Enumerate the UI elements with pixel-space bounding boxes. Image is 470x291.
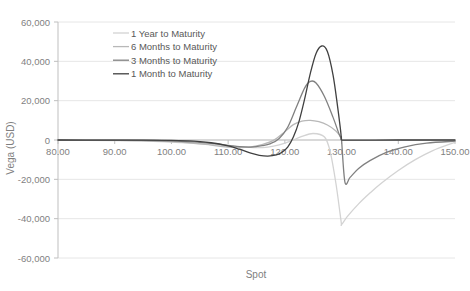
- legend-label-3: 3 Months to Maturity: [131, 55, 217, 66]
- chart-canvas: 60,00040,00020,0000-20,000-40,000-60,000…: [0, 0, 470, 291]
- legend-label-2: 6 Months to Maturity: [131, 41, 217, 52]
- vega-spot-chart: 60,00040,00020,0000-20,000-40,000-60,000…: [0, 0, 470, 291]
- y-axis-tick-label: 20,000: [21, 95, 50, 106]
- y-axis-tick-label: 0: [45, 135, 50, 146]
- y-axis-tick-label: -40,000: [18, 213, 50, 224]
- x-axis-tick-label: 100.00: [157, 146, 186, 157]
- legend-label-4: 1 Month to Maturity: [131, 68, 213, 79]
- y-axis-title: Vega (USD): [5, 121, 16, 174]
- x-axis-tick-label: 90.00: [103, 146, 127, 157]
- x-axis-title: Spot: [246, 269, 267, 280]
- y-axis-tick-label: 60,000: [21, 17, 50, 28]
- y-axis-tick-label: -20,000: [18, 174, 50, 185]
- y-axis-tick-label: -60,000: [18, 253, 50, 264]
- x-axis-tick-label: 80.00: [46, 146, 70, 157]
- x-axis-tick-label: 150.00: [440, 146, 469, 157]
- y-axis-tick-label: 40,000: [21, 56, 50, 67]
- legend-label-1: 1 Year to Maturity: [131, 28, 205, 39]
